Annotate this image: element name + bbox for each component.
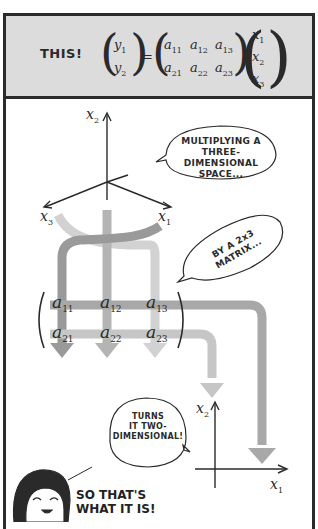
bubble-turns-text: TURNS IT TWO- DIMENSIONAL! [110, 412, 186, 442]
matrix-a21: a21 [52, 322, 74, 344]
matrix-a13: a13 [146, 292, 168, 314]
axis3d-x2-label: x2 [86, 106, 99, 125]
matrix-a23: a23 [146, 322, 168, 344]
matrix-a22: a22 [100, 322, 122, 344]
character-line: SO THAT'S WHAT IT IS! [76, 488, 155, 516]
matrix-a12: a12 [100, 292, 122, 314]
axes-3d [44, 113, 171, 209]
bubble-multiplying-text: MULTIPLYING A THREE-DIMENSIONAL SPACE... [166, 136, 276, 180]
axis2d-x2-label: x2 [196, 400, 209, 419]
matrix-a11: a11 [52, 292, 74, 314]
axis3d-x3-label: x3 [40, 208, 53, 227]
speech-line [68, 467, 92, 480]
axis2d-x1-label: x1 [270, 476, 283, 495]
character [14, 470, 70, 522]
axis3d-x1-label: x1 [158, 208, 171, 227]
flow-row2 [50, 334, 212, 378]
